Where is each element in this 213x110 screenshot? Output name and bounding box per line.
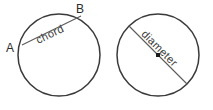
circle-diagram: chord A B diameter (0, 0, 213, 110)
point-a-label: A (6, 41, 14, 55)
diameter-circle-group: diameter (117, 14, 199, 96)
diagram-canvas: chord A B diameter (0, 0, 213, 110)
chord-circle-group: chord A B (6, 2, 100, 96)
point-b-label: B (76, 2, 84, 16)
